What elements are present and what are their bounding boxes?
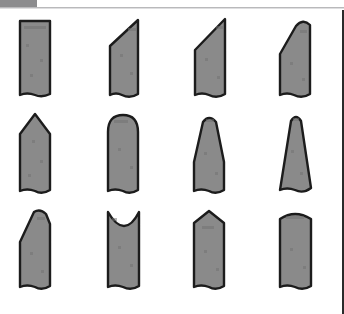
concave-notch-top-icon [86,206,172,302]
rounded-dome-top-icon [86,110,172,206]
tapered-bullet-top-icon [172,110,258,206]
shape-cell-pointed-gable-top[interactable] [0,110,86,206]
shape-cell-shallow-gable-top[interactable] [172,206,258,302]
asymmetric-chisel-top-icon [0,206,86,302]
header-divider-shadow [0,8,344,9]
shape-row [0,206,344,302]
shape-grid [0,12,344,314]
shape-row [0,110,344,206]
shape-cell-left-diagonal-bevel[interactable] [86,14,172,110]
shape-cell-rounded-dome-top[interactable] [86,110,172,206]
shape-cell-asymmetric-chisel-top[interactable] [0,206,86,302]
figure-root [0,0,344,314]
shape-cell-concave-notch-top[interactable] [86,206,172,302]
shape-cell-flat-top-rectangle[interactable] [0,14,86,110]
shape-cell-steep-diagonal-bevel[interactable] [172,14,258,110]
shape-cell-convex-arched-top[interactable] [258,206,344,302]
shape-cell-narrow-tapered-spire[interactable] [258,110,344,206]
narrow-tapered-spire-icon [258,110,344,206]
shape-cell-rounded-diagonal-bevel[interactable] [258,14,344,110]
header-tab[interactable] [0,0,37,7]
rounded-diagonal-bevel-icon [258,14,344,110]
header-band [0,0,344,12]
flat-top-rectangle-icon [0,14,86,110]
pointed-gable-top-icon [0,110,86,206]
steep-diagonal-bevel-icon [172,14,258,110]
convex-arched-top-icon [258,206,344,302]
shallow-gable-top-icon [172,206,258,302]
shape-row [0,14,344,110]
shape-cell-tapered-bullet-top[interactable] [172,110,258,206]
left-diagonal-bevel-icon [86,14,172,110]
